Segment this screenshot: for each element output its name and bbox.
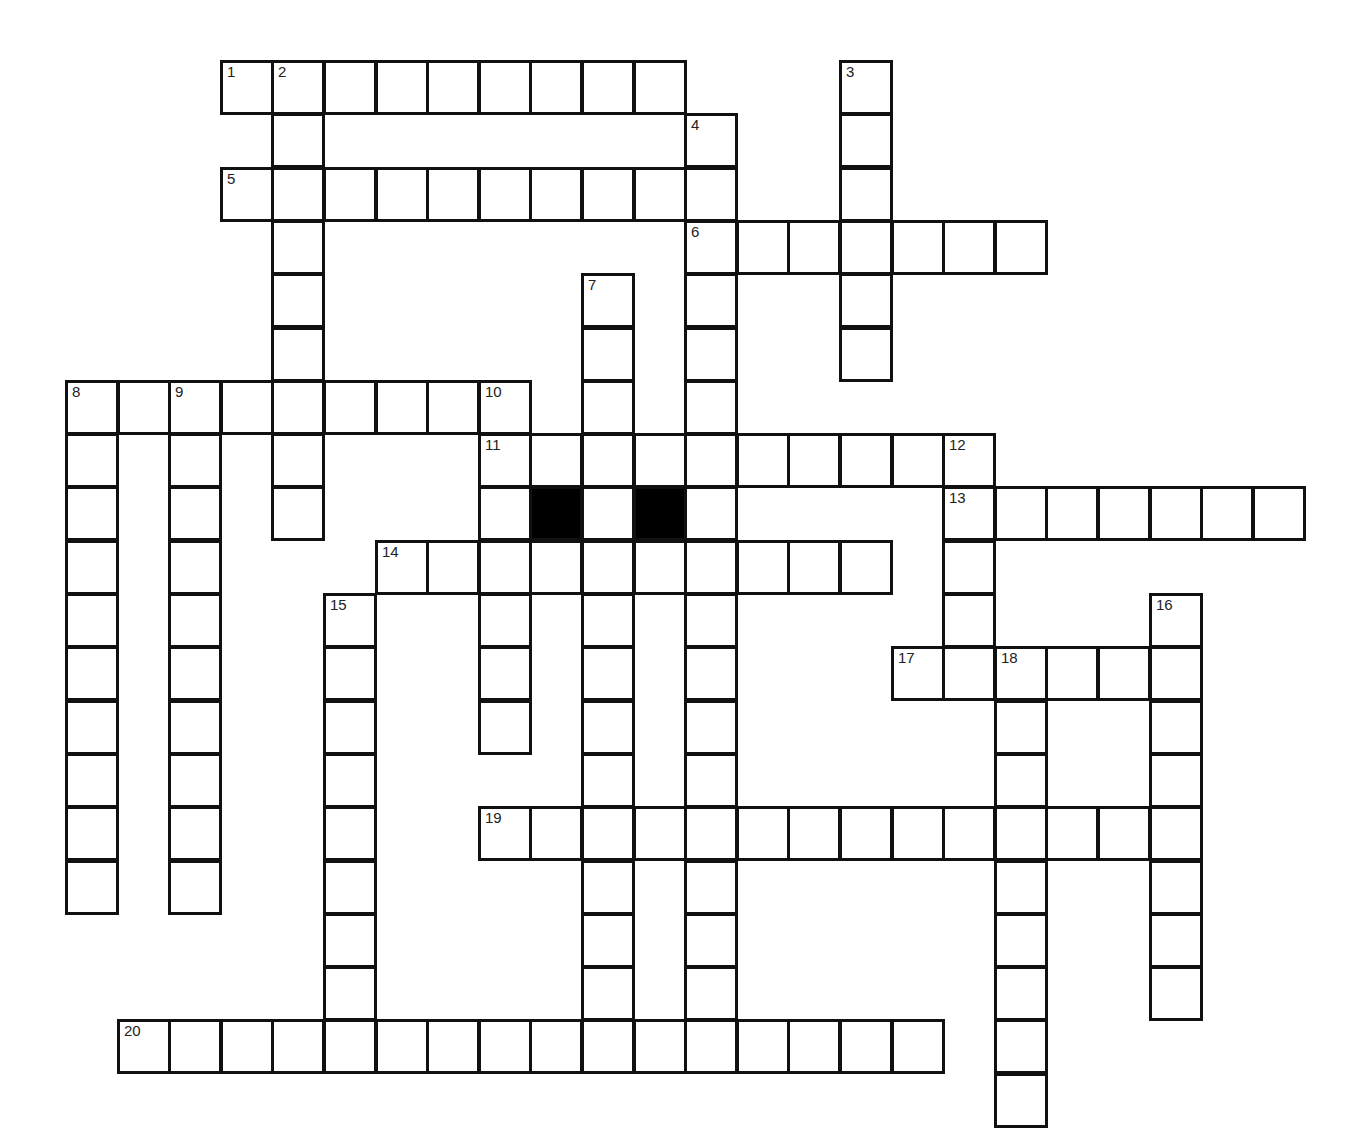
grid-cell[interactable] — [839, 433, 893, 488]
grid-cell[interactable] — [581, 860, 635, 915]
grid-cell[interactable] — [426, 380, 480, 435]
letter-input[interactable] — [532, 543, 580, 592]
grid-cell[interactable] — [117, 380, 171, 435]
grid-cell[interactable] — [1097, 486, 1151, 541]
grid-cell[interactable] — [581, 593, 635, 648]
letter-input[interactable] — [945, 223, 993, 272]
grid-cell[interactable] — [65, 593, 119, 648]
letter-input[interactable] — [790, 436, 838, 485]
letter-input[interactable] — [171, 756, 219, 805]
letter-input[interactable] — [68, 383, 116, 432]
letter-input[interactable] — [687, 916, 735, 965]
letter-input[interactable] — [894, 809, 942, 858]
grid-cell[interactable] — [323, 860, 377, 915]
grid-cell[interactable] — [271, 327, 325, 382]
grid-cell[interactable] — [994, 1019, 1048, 1074]
grid-cell[interactable]: 11 — [478, 433, 532, 488]
grid-cell[interactable] — [684, 593, 738, 648]
letter-input[interactable] — [1152, 863, 1200, 912]
grid-cell[interactable] — [684, 327, 738, 382]
grid-cell[interactable] — [65, 806, 119, 861]
letter-input[interactable] — [481, 383, 529, 432]
letter-input[interactable] — [687, 649, 735, 698]
letter-input[interactable] — [274, 276, 322, 325]
letter-input[interactable] — [1100, 489, 1148, 538]
letter-input[interactable] — [1100, 649, 1148, 698]
grid-cell[interactable] — [787, 220, 841, 275]
grid-cell[interactable] — [323, 753, 377, 808]
grid-cell[interactable] — [1200, 486, 1254, 541]
grid-cell[interactable] — [633, 806, 687, 861]
letter-input[interactable] — [739, 223, 787, 272]
grid-cell[interactable] — [994, 806, 1048, 861]
grid-cell[interactable]: 4 — [684, 113, 738, 168]
grid-cell[interactable] — [581, 380, 635, 435]
letter-input[interactable] — [1048, 489, 1096, 538]
letter-input[interactable] — [997, 863, 1045, 912]
grid-cell[interactable]: 19 — [478, 806, 532, 861]
letter-input[interactable] — [636, 543, 684, 592]
grid-cell[interactable] — [65, 700, 119, 755]
grid-cell[interactable] — [994, 220, 1048, 275]
letter-input[interactable] — [481, 1022, 529, 1071]
letter-input[interactable] — [481, 63, 529, 112]
letter-input[interactable] — [429, 170, 477, 219]
grid-cell[interactable] — [478, 1019, 532, 1074]
letter-input[interactable] — [687, 703, 735, 752]
grid-cell[interactable] — [168, 646, 222, 701]
letter-input[interactable] — [326, 756, 374, 805]
grid-cell[interactable] — [787, 806, 841, 861]
letter-input[interactable] — [223, 63, 271, 112]
letter-input[interactable] — [997, 1022, 1045, 1071]
letter-input[interactable] — [532, 436, 580, 485]
grid-cell[interactable] — [323, 913, 377, 968]
grid-cell[interactable] — [168, 433, 222, 488]
letter-input[interactable] — [790, 1022, 838, 1071]
letter-input[interactable] — [68, 756, 116, 805]
letter-input[interactable] — [326, 809, 374, 858]
letter-input[interactable] — [171, 596, 219, 645]
grid-cell[interactable] — [839, 1019, 893, 1074]
grid-cell[interactable] — [168, 700, 222, 755]
letter-input[interactable] — [1152, 703, 1200, 752]
letter-input[interactable] — [894, 649, 942, 698]
letter-input[interactable] — [171, 703, 219, 752]
grid-cell[interactable] — [1149, 860, 1203, 915]
letter-input[interactable] — [68, 809, 116, 858]
grid-cell[interactable]: 2 — [271, 60, 325, 115]
grid-cell[interactable] — [581, 646, 635, 701]
grid-cell[interactable] — [478, 167, 532, 222]
letter-input[interactable] — [687, 756, 735, 805]
grid-cell[interactable] — [323, 167, 377, 222]
letter-input[interactable] — [171, 1022, 219, 1071]
letter-input[interactable] — [429, 383, 477, 432]
grid-cell[interactable] — [271, 380, 325, 435]
grid-cell[interactable] — [323, 380, 377, 435]
letter-input[interactable] — [274, 63, 322, 112]
grid-cell[interactable] — [65, 646, 119, 701]
grid-cell[interactable] — [1149, 646, 1203, 701]
letter-input[interactable] — [378, 543, 426, 592]
letter-input[interactable] — [274, 330, 322, 379]
letter-input[interactable] — [790, 809, 838, 858]
grid-cell[interactable] — [323, 646, 377, 701]
letter-input[interactable] — [171, 809, 219, 858]
grid-cell[interactable]: 12 — [942, 433, 996, 488]
letter-input[interactable] — [68, 863, 116, 912]
grid-cell[interactable] — [684, 1019, 738, 1074]
letter-input[interactable] — [326, 863, 374, 912]
grid-cell[interactable] — [323, 700, 377, 755]
letter-input[interactable] — [584, 1022, 632, 1071]
letter-input[interactable] — [584, 703, 632, 752]
grid-cell[interactable] — [375, 1019, 429, 1074]
grid-cell[interactable] — [633, 540, 687, 595]
grid-cell[interactable] — [271, 273, 325, 328]
grid-cell[interactable] — [220, 1019, 274, 1074]
letter-input[interactable] — [532, 63, 580, 112]
letter-input[interactable] — [326, 703, 374, 752]
grid-cell[interactable] — [994, 486, 1048, 541]
letter-input[interactable] — [687, 330, 735, 379]
letter-input[interactable] — [842, 170, 890, 219]
grid-cell[interactable] — [633, 433, 687, 488]
grid-cell[interactable] — [168, 540, 222, 595]
